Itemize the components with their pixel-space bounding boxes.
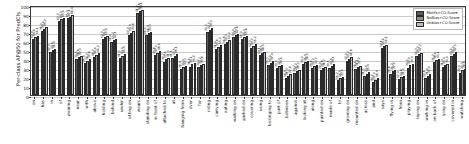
x-tick-label: playing: [407, 100, 411, 115]
x-tick-label: says: [381, 100, 385, 109]
x-tick-label: for: [198, 100, 202, 106]
x-tick-mark: [322, 97, 323, 99]
bar-group: 64.066.467.8: [232, 7, 239, 95]
x-tick-label: part of: [276, 100, 280, 114]
bar-value-label: 56.1: [385, 37, 388, 44]
bar: 66.1: [37, 36, 39, 95]
legend-item[interactable]: Unbias+CO-Score: [416, 22, 459, 27]
bar-value-label: 34.4: [411, 56, 414, 63]
x-tick-mark: [313, 97, 314, 99]
x-tick-mark: [78, 97, 79, 99]
x-tick-label: against: [294, 100, 298, 115]
x-tick-label: made of: [329, 100, 333, 117]
bar: 18.4: [377, 78, 379, 95]
bar: 60.9: [228, 40, 230, 95]
x-tick-mark: [183, 97, 184, 99]
x-tick-mark: [43, 97, 44, 99]
bar-group: 33.535.937.4: [267, 7, 274, 95]
bar-value-label: 28.8: [463, 61, 466, 68]
bar: 28.2: [298, 70, 300, 95]
bar: 34.4: [412, 64, 414, 95]
bar: 51.4: [54, 49, 56, 95]
bar-group: 47.349.851.4: [49, 7, 56, 95]
x-axis-tick-labels: onhasinofwearingnearwithaboveholdingbehi…: [30, 97, 466, 144]
bar-group: 62.064.365.9: [102, 7, 109, 95]
bar: 94.1: [141, 10, 143, 95]
x-tick-mark: [409, 97, 410, 99]
x-tick-mark: [357, 97, 358, 99]
x-tick-label: standing on: [146, 100, 150, 124]
bar: 31.2: [324, 67, 326, 95]
bar-group: 31.634.135.7: [189, 7, 196, 95]
bar-value-label: 51.4: [53, 41, 56, 48]
bar-group: 67.069.470.8: [128, 7, 135, 95]
bar: 65.9: [106, 36, 108, 95]
bar-group: 52.354.756.2: [250, 7, 257, 95]
bar-value-label: 22.9: [428, 67, 431, 74]
bar-group: 17.419.821.2: [398, 7, 405, 95]
x-tick-label: watching: [460, 100, 464, 119]
x-tick-mark: [165, 97, 166, 99]
x-tick-mark: [156, 97, 157, 99]
bar-group: 70.272.574.0: [206, 7, 213, 95]
bar-series-container: 62.464.866.171.073.675.247.349.851.482.2…: [31, 7, 465, 95]
bar-value-label: 34.1: [332, 56, 335, 63]
bar-value-label: 88.4: [71, 8, 74, 15]
bar-group: 62.464.866.1: [32, 7, 39, 95]
bar-group: 56.859.360.9: [224, 7, 231, 95]
x-tick-label: belonging to: [268, 100, 272, 126]
x-tick-label: from: [399, 100, 403, 110]
y-tick-label: 100: [20, 5, 28, 10]
bar-chart-figure: Per-class AP@50 for PredCls 010203040506…: [0, 0, 469, 144]
y-tick-label: 20: [23, 77, 29, 82]
legend-label: NoBias+CO-Score: [426, 17, 459, 21]
bar: 28.8: [464, 69, 466, 95]
bar: 70.8: [132, 31, 134, 95]
x-tick-label: wears: [137, 100, 141, 112]
x-tick-mark: [226, 97, 227, 99]
x-tick-mark: [235, 97, 236, 99]
bar-value-label: 20.0: [341, 69, 344, 76]
x-tick-label: on back of: [433, 100, 437, 121]
x-tick-label: walking in: [425, 100, 429, 121]
x-tick-mark: [113, 97, 114, 99]
bar-value-label: 40.1: [437, 51, 440, 58]
bar-value-label: 47.5: [455, 44, 458, 51]
x-tick-label: has: [41, 100, 45, 107]
x-tick-mark: [279, 97, 280, 99]
bar-value-label: 56.2: [254, 37, 257, 44]
bar-value-label: 38.0: [306, 53, 309, 60]
bar-group: 41.744.646.2: [93, 7, 100, 95]
x-tick-label: mounted on: [355, 100, 359, 125]
x-tick-mark: [104, 97, 105, 99]
bar: 67.8: [237, 34, 239, 95]
x-tick-label: walking on: [233, 100, 237, 122]
x-tick-label: in front of: [154, 100, 158, 120]
bar: 34.9: [446, 64, 448, 95]
x-tick-label: between: [285, 100, 289, 118]
x-tick-mark: [383, 97, 384, 99]
bar-value-label: 70.8: [132, 23, 135, 30]
bar-value-label: 21.2: [402, 68, 405, 75]
x-tick-mark: [122, 97, 123, 99]
bar: 75.2: [45, 27, 47, 95]
x-tick-label: near: [76, 100, 80, 109]
x-tick-mark: [200, 97, 201, 99]
x-tick-mark: [305, 97, 306, 99]
bar-group: 35.938.239.8: [84, 7, 91, 95]
y-tick-label: 10: [23, 86, 29, 91]
bar-group: 14.717.018.4: [372, 7, 379, 95]
x-tick-mark: [61, 97, 62, 99]
x-tick-label: laying on: [416, 100, 420, 119]
bar-group: 44.146.548.0: [259, 7, 266, 95]
x-tick-mark: [252, 97, 253, 99]
x-tick-label: holding: [102, 100, 106, 115]
x-tick-label: in: [50, 100, 54, 104]
bar-value-label: 32.7: [359, 58, 362, 65]
y-tick-label: 70: [23, 32, 29, 37]
x-tick-mark: [462, 97, 463, 99]
x-tick-mark: [69, 97, 70, 99]
x-tick-mark: [435, 97, 436, 99]
bar: 39.8: [89, 59, 91, 95]
bar-group: 24.226.728.2: [293, 7, 300, 95]
